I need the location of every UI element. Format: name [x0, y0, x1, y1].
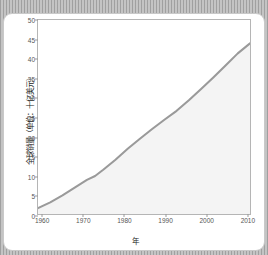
y-tick-label: 50: [28, 17, 35, 24]
y-tick-mark: [35, 137, 38, 138]
x-tick-label: 1970: [76, 217, 90, 224]
axis-ticks: 0510152025303540455019601970198019902000…: [38, 20, 250, 214]
x-tick-mark: [165, 214, 166, 217]
y-tick-label: 15: [28, 154, 35, 161]
y-tick-label: 25: [28, 115, 35, 122]
y-tick-label: 20: [28, 134, 35, 141]
y-tick-label: 45: [28, 36, 35, 43]
x-tick-label: 2010: [241, 217, 255, 224]
x-tick-mark: [83, 214, 84, 217]
y-tick-label: 30: [28, 95, 35, 102]
y-tick-mark: [35, 59, 38, 60]
y-tick-mark: [35, 196, 38, 197]
y-tick-mark: [35, 39, 38, 40]
x-tick-mark: [247, 214, 248, 217]
screenshot-root: 全球销量（单位：十亿美元） 05101520253035404550196019…: [0, 0, 268, 255]
y-tick-mark: [35, 157, 38, 158]
plot-area: 0510152025303540455019601970198019902000…: [37, 19, 251, 215]
y-tick-mark: [35, 20, 38, 21]
y-tick-mark: [35, 98, 38, 99]
x-axis-label: 年: [4, 235, 265, 246]
x-tick-label: 1960: [35, 217, 49, 224]
x-tick-mark: [124, 214, 125, 217]
y-tick-label: 35: [28, 75, 35, 82]
y-tick-mark: [35, 78, 38, 79]
x-tick-label: 1990: [158, 217, 172, 224]
chart-figure: 全球销量（单位：十亿美元） 05101520253035404550196019…: [4, 14, 265, 251]
x-tick-label: 1980: [117, 217, 131, 224]
y-tick-label: 40: [28, 56, 35, 63]
y-tick-label: 10: [28, 173, 35, 180]
y-tick-mark: [35, 118, 38, 119]
x-tick-label: 2000: [199, 217, 213, 224]
x-tick-mark: [42, 214, 43, 217]
y-tick-mark: [35, 176, 38, 177]
chart-card: 全球销量（单位：十亿美元） 05101520253035404550196019…: [3, 13, 265, 251]
x-tick-mark: [206, 214, 207, 217]
